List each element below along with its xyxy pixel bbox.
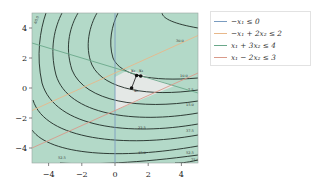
y-tick-label: −4 (15, 144, 27, 153)
legend-swatch (214, 33, 227, 34)
contour-label: 52.5 (58, 156, 66, 160)
legend-item: −x₁ ≤ 0 (214, 15, 307, 27)
x-tick-label: −4 (43, 170, 55, 179)
legend-swatch (214, 57, 227, 58)
legend-item: −x₁ + 2x₂ ≤ 2 (214, 27, 307, 39)
y-tick-label: 4 (22, 24, 27, 33)
legend-swatch (214, 45, 227, 46)
contour-label: 52.5 (186, 151, 194, 155)
legend-label: x₁ − 2x₂ ≤ 3 (231, 53, 276, 62)
y-axis: 4 2 0 −2 −4 (15, 24, 32, 153)
legend-item: x₁ − 2x₂ ≤ 3 (214, 51, 307, 63)
legend-swatch (214, 21, 227, 22)
x-tick-label: −2 (76, 170, 88, 179)
point-label-x0: x₀ (134, 88, 139, 93)
point-label-x1: x₁ (139, 68, 144, 73)
y-tick-label: 0 (22, 84, 27, 93)
x-tick-label: 0 (112, 170, 117, 179)
contour-label: 37.5 (186, 129, 194, 133)
contour-label: 15.0 (186, 103, 194, 107)
legend-label: −x₁ + 2x₂ ≤ 2 (231, 29, 282, 38)
legend: −x₁ ≤ 0 −x₁ + 2x₂ ≤ 2 x₁ + 3x₂ ≤ 4 x₁ − … (210, 11, 311, 66)
point-x2 (135, 74, 139, 78)
x-tick-label: 4 (179, 170, 184, 179)
legend-label: −x₁ ≤ 0 (231, 17, 260, 26)
legend-item: x₁ + 3x₂ ≤ 4 (214, 39, 307, 51)
contour-label: 10.0 (180, 74, 188, 78)
contour-label: 45.0 (138, 151, 146, 155)
contour-label: 75.0 (191, 158, 199, 162)
point-label-x2: x₂ (131, 68, 136, 73)
y-tick-label: 2 (22, 54, 27, 63)
legend-label: x₁ + 3x₂ ≤ 4 (231, 41, 276, 50)
contour-label: 30.0 (176, 39, 184, 43)
x-tick-label: 2 (146, 170, 151, 179)
x-axis: −4 −2 0 2 4 (43, 163, 184, 179)
point-x1 (139, 74, 143, 78)
y-tick-label: −2 (15, 114, 27, 123)
contour-label: 7.5 (188, 88, 194, 92)
point-x0 (130, 86, 134, 90)
contour-label: 22.5 (138, 126, 146, 130)
